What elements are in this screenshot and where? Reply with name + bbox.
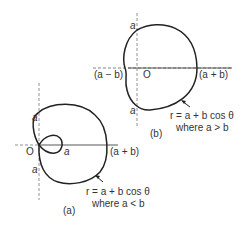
a-limacon-inner-loop [39, 135, 62, 153]
a-equation-label: r = a + b cos θ [86, 187, 150, 197]
a-right-intercept-label: (a + b) [110, 147, 139, 157]
b-limacon-curve [124, 25, 197, 110]
b-condition-label: where a > b [176, 123, 229, 133]
a-origin-label: O [26, 147, 34, 157]
a-inner-loop-label: a [64, 147, 70, 157]
a-bottom-intercept-label: a [32, 165, 38, 175]
a-condition-label: where a < b [92, 199, 145, 209]
b-top-intercept-label: a [130, 21, 136, 31]
b-origin-label: O [143, 70, 151, 80]
b-left-intercept-label: (a − b) [94, 70, 123, 80]
b-caption: (b) [150, 129, 162, 139]
b-right-intercept-label: (a + b) [199, 70, 228, 80]
a-top-intercept-label: a [32, 113, 38, 123]
b-equation-label: r = a + b cos θ [170, 111, 234, 121]
a-caption: (a) [63, 206, 75, 216]
a-limacon-outer-loop [33, 104, 107, 183]
b-bottom-intercept-label: a [130, 106, 136, 116]
